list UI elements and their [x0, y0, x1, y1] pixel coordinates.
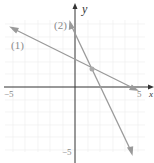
line-1-arrow-left-icon — [11, 28, 18, 33]
intersection-point — [90, 67, 95, 72]
y-axis-arrow-icon — [73, 3, 78, 9]
y-axis-label: y — [82, 3, 87, 15]
line-1-label: (1) — [11, 40, 24, 51]
coordinate-plane — [0, 0, 154, 163]
x-min-tick-label: −5 — [4, 90, 14, 99]
x-axis-label: x — [149, 90, 153, 99]
line-1-arrow-right-icon — [130, 86, 137, 91]
y-min-tick-label: −5 — [62, 148, 72, 157]
line-2-label: (2) — [54, 20, 67, 31]
x-max-tick-label: 5 — [137, 90, 142, 99]
line-2-arrow-bottom-icon — [128, 147, 133, 154]
line-2 — [70, 22, 133, 154]
line-2-arrow-top-icon — [70, 22, 74, 29]
